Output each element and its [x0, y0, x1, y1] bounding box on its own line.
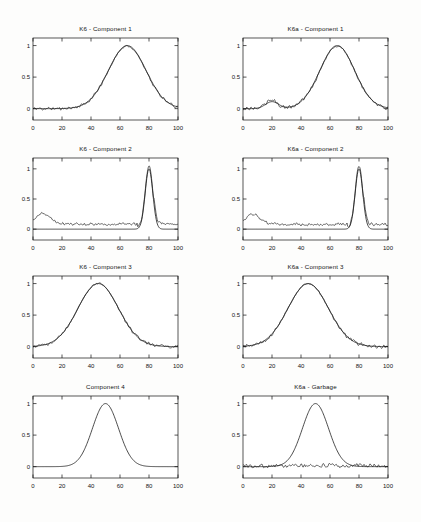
x-tick-label: 60 — [327, 363, 334, 369]
x-tick-label: 0 — [31, 483, 35, 489]
axis-frame — [33, 396, 178, 478]
y-tick-label: 1 — [237, 401, 241, 407]
x-tick-label: 40 — [88, 363, 95, 369]
x-tick-label: 80 — [146, 483, 153, 489]
y-tick-label: 0.5 — [232, 196, 241, 202]
axis-frame — [243, 158, 388, 240]
y-tick-label: 0 — [237, 464, 241, 470]
x-tick-label: 60 — [327, 483, 334, 489]
y-tick-label: 0.5 — [22, 74, 31, 80]
y-tick-label: 1 — [27, 43, 31, 49]
x-tick-label: 80 — [146, 245, 153, 251]
y-tick-label: 0.5 — [22, 432, 31, 438]
subplot-k6-component-3: K6 - Component 302040608010000.51 — [13, 263, 198, 378]
x-tick-label: 80 — [356, 483, 363, 489]
subplot-k6a-garbage: K6a - Garbage02040608010000.51 — [223, 383, 408, 498]
x-tick-label: 100 — [383, 363, 394, 369]
y-tick-label: 0.5 — [22, 196, 31, 202]
y-tick-label: 1 — [237, 43, 241, 49]
x-tick-label: 0 — [241, 245, 245, 251]
y-tick-label: 0 — [27, 344, 31, 350]
subplot-k6a-component-1: K6a - Component 102040608010000.51 — [223, 25, 408, 140]
plot-area-k6a-garbage: 02040608010000.51 — [223, 394, 408, 498]
y-tick-label: 0.5 — [22, 312, 31, 318]
x-tick-label: 60 — [327, 125, 334, 131]
subplot-title-k6-component-1: K6 - Component 1 — [13, 25, 198, 32]
x-tick-label: 40 — [88, 245, 95, 251]
x-tick-label: 60 — [117, 363, 124, 369]
subplot-k6-component-2: K6 - Component 202040608010000.51 — [13, 145, 198, 260]
y-tick-label: 1 — [27, 281, 31, 287]
x-tick-label: 60 — [117, 125, 124, 131]
plot-area-k6-component-3: 02040608010000.51 — [13, 274, 198, 378]
x-tick-label: 20 — [59, 483, 66, 489]
y-tick-label: 0 — [27, 106, 31, 112]
x-tick-label: 60 — [117, 245, 124, 251]
x-tick-label: 0 — [241, 363, 245, 369]
x-tick-label: 100 — [173, 483, 184, 489]
y-tick-label: 0 — [27, 226, 31, 232]
x-tick-label: 100 — [173, 125, 184, 131]
subplot-k6-component-1: K6 - Component 102040608010000.51 — [13, 25, 198, 140]
x-tick-label: 40 — [88, 125, 95, 131]
subplot-k6a-component-3: K6a - Component 302040608010000.51 — [223, 263, 408, 378]
subplot-title-k6-component-3: K6 - Component 3 — [13, 263, 198, 270]
x-tick-label: 0 — [241, 125, 245, 131]
y-tick-label: 1 — [27, 166, 31, 172]
x-tick-label: 60 — [327, 245, 334, 251]
x-tick-label: 100 — [383, 245, 394, 251]
x-tick-label: 20 — [59, 363, 66, 369]
y-tick-label: 1 — [27, 401, 31, 407]
axis-frame — [33, 158, 178, 240]
subplot-title-k6a-component-3: K6a - Component 3 — [223, 263, 408, 270]
x-tick-label: 40 — [298, 363, 305, 369]
x-tick-label: 20 — [269, 125, 276, 131]
plot-area-k6-component-1: 02040608010000.51 — [13, 36, 198, 140]
x-tick-label: 0 — [31, 125, 35, 131]
y-tick-label: 0.5 — [232, 432, 241, 438]
y-tick-label: 1 — [237, 281, 241, 287]
x-tick-label: 40 — [298, 125, 305, 131]
x-tick-label: 20 — [269, 363, 276, 369]
x-tick-label: 100 — [383, 483, 394, 489]
y-tick-label: 1 — [237, 166, 241, 172]
x-tick-label: 0 — [31, 363, 35, 369]
y-tick-label: 0 — [237, 226, 241, 232]
x-tick-label: 80 — [356, 245, 363, 251]
x-tick-label: 40 — [298, 483, 305, 489]
subplot-title-k6a-component-2: K6a - Component 2 — [223, 145, 408, 152]
plot-area-k6a-component-2: 02040608010000.51 — [223, 156, 408, 260]
x-tick-label: 60 — [117, 483, 124, 489]
subplot-title-component-4: Component 4 — [13, 383, 198, 390]
y-tick-label: 0 — [237, 344, 241, 350]
axis-frame — [33, 38, 178, 120]
subplot-title-k6a-component-1: K6a - Component 1 — [223, 25, 408, 32]
plot-area-k6a-component-3: 02040608010000.51 — [223, 274, 408, 378]
subplot-k6a-component-2: K6a - Component 202040608010000.51 — [223, 145, 408, 260]
x-tick-label: 20 — [269, 245, 276, 251]
y-tick-label: 0.5 — [232, 312, 241, 318]
x-tick-label: 40 — [88, 483, 95, 489]
x-tick-label: 20 — [269, 483, 276, 489]
x-tick-label: 20 — [59, 245, 66, 251]
subplot-title-k6-component-2: K6 - Component 2 — [13, 145, 198, 152]
x-tick-label: 80 — [356, 363, 363, 369]
plot-area-k6a-component-1: 02040608010000.51 — [223, 36, 408, 140]
plot-area-component-4: 02040608010000.51 — [13, 394, 198, 498]
x-tick-label: 100 — [173, 245, 184, 251]
subplot-title-k6a-garbage: K6a - Garbage — [223, 383, 408, 390]
x-tick-label: 80 — [356, 125, 363, 131]
x-tick-label: 40 — [298, 245, 305, 251]
x-tick-label: 80 — [146, 363, 153, 369]
x-tick-label: 80 — [146, 125, 153, 131]
subplot-component-4: Component 402040608010000.51 — [13, 383, 198, 498]
y-tick-label: 0.5 — [232, 74, 241, 80]
y-tick-label: 0 — [237, 106, 241, 112]
y-tick-label: 0 — [27, 464, 31, 470]
plot-area-k6-component-2: 02040608010000.51 — [13, 156, 198, 260]
x-tick-label: 0 — [31, 245, 35, 251]
figure-canvas: K6 - Component 102040608010000.51K6a - C… — [0, 0, 421, 522]
x-tick-label: 100 — [173, 363, 184, 369]
x-tick-label: 0 — [241, 483, 245, 489]
x-tick-label: 100 — [383, 125, 394, 131]
